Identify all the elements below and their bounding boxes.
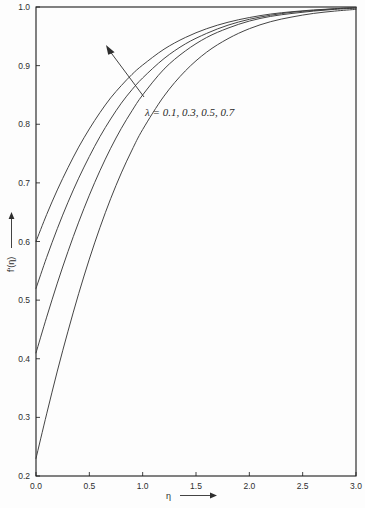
- chart-figure: 0.20.30.40.50.60.70.80.91.0 0.00.51.01.5…: [0, 0, 365, 508]
- x-tick-label: 0.0: [30, 481, 42, 491]
- y-tick-label: 0.9: [18, 61, 30, 71]
- y-tick-label: 0.8: [18, 119, 30, 129]
- y-tick-label: 0.6: [18, 237, 30, 247]
- y-tick-label: 0.7: [18, 178, 30, 188]
- y-tick-label: 0.4: [18, 354, 30, 364]
- x-axis-title: η: [166, 491, 171, 501]
- chart-svg: 0.20.30.40.50.60.70.80.91.0 0.00.51.01.5…: [0, 0, 365, 508]
- y-tick-label: 0.3: [18, 412, 30, 422]
- lambda-annotation: λ = 0.1, 0.3, 0.5, 0.7: [144, 106, 235, 118]
- x-tick-label: 3.0: [350, 481, 362, 491]
- y-tick-label: 1.0: [18, 2, 30, 12]
- y-axis-title: f'(η): [6, 257, 16, 272]
- x-tick-label: 2.5: [297, 481, 309, 491]
- y-tick-label: 0.5: [18, 295, 30, 305]
- x-tick-label: 0.5: [83, 481, 95, 491]
- x-tick-label: 2.0: [243, 481, 255, 491]
- x-tick-label: 1.5: [190, 481, 202, 491]
- x-tick-label: 1.0: [137, 481, 149, 491]
- chart-background: [0, 0, 365, 508]
- y-tick-label: 0.2: [18, 471, 30, 481]
